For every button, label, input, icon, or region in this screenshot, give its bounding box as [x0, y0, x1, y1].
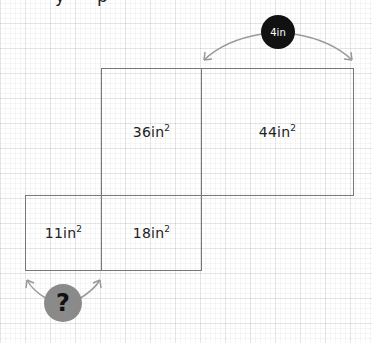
box-top-right-label: 44in2 [259, 124, 296, 140]
box-top-middle-label: 36in2 [133, 124, 170, 140]
area-diagram: 36in2 44in2 11in2 18in2 4in ? [0, 0, 372, 343]
arrow-right-top-icon [294, 34, 352, 60]
box-bottom-left: 11in2 [25, 195, 102, 271]
known-length-label: 4in [270, 27, 285, 38]
arrow-right-bottom-icon [79, 280, 100, 299]
question-mark-icon: ? [56, 289, 70, 317]
box-bottom-left-label: 11in2 [45, 225, 82, 241]
box-top-middle: 36in2 [101, 68, 202, 196]
box-bottom-middle-label: 18in2 [133, 225, 170, 241]
unknown-length-badge: ? [44, 284, 82, 322]
arrow-left-top-icon [204, 34, 262, 60]
box-top-right: 44in2 [201, 68, 354, 196]
box-bottom-middle: 18in2 [101, 195, 202, 271]
known-length-badge: 4in [261, 15, 295, 49]
